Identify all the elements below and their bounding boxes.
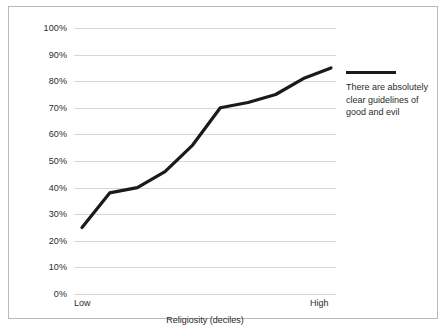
y-axis-tick-label: 50%	[49, 156, 67, 166]
y-axis-tick-label: 100%	[44, 23, 67, 33]
y-axis-tick-label: 10%	[49, 262, 67, 272]
legend-color-swatch	[346, 71, 396, 74]
x-axis-title: Religiosity (deciles)	[9, 315, 401, 325]
gridline	[74, 294, 336, 295]
y-axis-tick-label: 20%	[49, 236, 67, 246]
y-axis-tick-label: 30%	[49, 209, 67, 219]
y-axis-tick-label: 90%	[49, 50, 67, 60]
y-axis-tick-label: 80%	[49, 76, 67, 86]
plot-area	[74, 28, 336, 294]
legend-entry-label: There are absolutely clear guidelines of…	[346, 81, 438, 119]
x-axis-low-label: Low	[74, 298, 91, 308]
series-line-chart	[74, 28, 336, 294]
y-axis-tick-label: 40%	[49, 183, 67, 193]
chart-legend: There are absolutely clear guidelines of…	[346, 71, 438, 119]
y-axis-tick-label: 0%	[54, 289, 67, 299]
y-axis-tick-label: 60%	[49, 129, 67, 139]
series-polyline-guidelines	[82, 68, 331, 228]
chart-frame: 100%90%80%70%60%50%40%30%20%10%0% Low Hi…	[8, 6, 438, 319]
x-axis-high-label: High	[310, 298, 329, 308]
y-axis-tick-label: 70%	[49, 103, 67, 113]
y-axis-tick-labels: 100%90%80%70%60%50%40%30%20%10%0%	[29, 28, 67, 294]
